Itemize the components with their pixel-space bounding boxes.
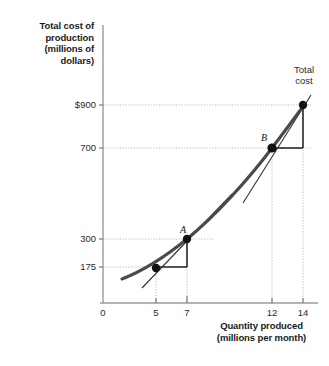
y-axis-title-line3: (millions of xyxy=(2,43,94,55)
x-axis-title-line2: (millions per month) xyxy=(196,332,327,344)
y-axis-title-line2: production xyxy=(2,32,94,44)
y-axis-title: Total cost of production (millions of do… xyxy=(2,20,94,66)
y-tick-label-300: 300 xyxy=(50,233,96,244)
x-tick-marks xyxy=(156,296,303,303)
total-cost-chart: Total cost of production (millions of do… xyxy=(0,0,329,366)
y-tick-label-175: 175 xyxy=(50,261,96,272)
y-axis-title-line4: dollars) xyxy=(2,55,94,67)
curve-start-point xyxy=(152,264,160,272)
y-tick-label-900: $900 xyxy=(50,99,96,110)
x-axis-title: Quantity produced (millions per month) xyxy=(196,320,327,343)
x-tick-label-12: 12 xyxy=(260,307,284,318)
total-cost-curve-label-line1: Total xyxy=(281,64,327,75)
total-cost-curve-label: Total cost xyxy=(281,64,327,86)
origin-label: 0 xyxy=(91,307,115,318)
horizontal-gridlines xyxy=(103,105,311,267)
x-axis-title-line1: Quantity produced xyxy=(196,320,327,332)
x-tick-label-7: 7 xyxy=(175,307,199,318)
point-a-marker xyxy=(183,235,191,243)
total-cost-curve xyxy=(122,104,305,279)
point-a-label: A xyxy=(180,224,186,235)
point-b-marker xyxy=(267,143,276,152)
x-tick-label-5: 5 xyxy=(144,307,168,318)
x-tick-label-14: 14 xyxy=(291,307,315,318)
total-cost-curve-label-line2: cost xyxy=(281,75,327,86)
y-axis-title-line1: Total cost of xyxy=(2,20,94,32)
curve-end-point xyxy=(299,101,307,109)
point-b-label: B xyxy=(261,132,267,143)
y-tick-label-700: 700 xyxy=(50,142,96,153)
